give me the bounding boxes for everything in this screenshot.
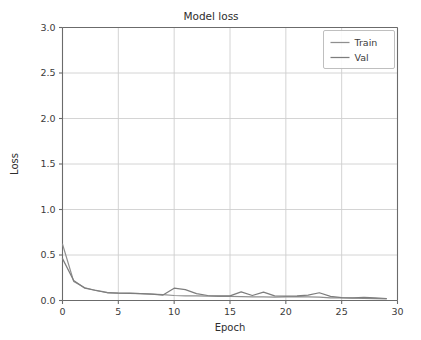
- chart-title: Model loss: [183, 10, 238, 22]
- y-tick-label: 0.0: [40, 295, 55, 306]
- legend-label-train: Train: [354, 37, 378, 48]
- y-tick-label: 1.0: [40, 204, 55, 215]
- y-tick-label: 1.5: [40, 158, 55, 169]
- x-axis-label: Epoch: [215, 322, 246, 333]
- legend-label-val: Val: [355, 52, 369, 63]
- chart-figure: 051015202530 0.00.51.01.52.02.53.0 Model…: [0, 0, 421, 340]
- model-loss-line-chart: 051015202530 0.00.51.01.52.02.53.0 Model…: [0, 0, 421, 340]
- x-tick-label: 5: [115, 306, 121, 317]
- chart-legend[interactable]: TrainVal: [324, 31, 395, 69]
- y-tick-label: 3.0: [40, 22, 55, 33]
- y-axis-label: Loss: [9, 153, 20, 175]
- y-tick-label: 0.5: [40, 249, 55, 260]
- x-tick-label: 25: [336, 306, 348, 317]
- y-tick-label: 2.5: [40, 67, 55, 78]
- x-tick-label: 30: [391, 306, 403, 317]
- x-tick-label: 20: [280, 306, 292, 317]
- x-tick-label: 10: [168, 306, 180, 317]
- x-tick-label: 0: [59, 306, 65, 317]
- x-tick-label: 15: [224, 306, 236, 317]
- y-tick-label: 2.0: [40, 113, 55, 124]
